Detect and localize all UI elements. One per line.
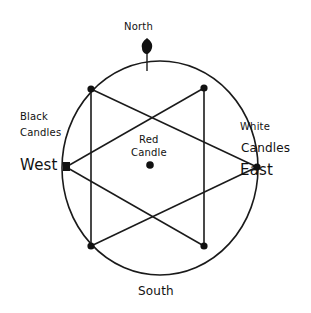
black-candles-label-line1: Black: [20, 112, 48, 122]
west-label: West: [20, 158, 58, 173]
vertex-west: [63, 162, 70, 171]
vertex-bottom-right: [200, 242, 207, 249]
diagram-canvas: North Black Candles West White Candles E…: [0, 0, 311, 313]
north-label: North: [124, 22, 153, 32]
red-candle-icon: [146, 161, 154, 169]
triangle2-edge: [66, 167, 204, 246]
triangle1-edge: [91, 167, 257, 246]
white-candles-label-line1: White: [240, 122, 270, 132]
triangle1-edge: [91, 89, 257, 167]
south-label: South: [138, 285, 174, 297]
east-label: East: [240, 163, 273, 178]
vertex-bottom-left: [87, 242, 94, 249]
vertex-top-left: [87, 85, 94, 92]
black-candles-label-line2: Candles: [20, 128, 61, 138]
north-candle-icon: [142, 38, 153, 54]
red-candle-label-line1: Red: [139, 135, 159, 145]
red-candle-label-line2: Candle: [131, 148, 167, 158]
vertex-top-right: [200, 84, 207, 91]
white-candles-label-line2: Candles: [241, 142, 290, 154]
